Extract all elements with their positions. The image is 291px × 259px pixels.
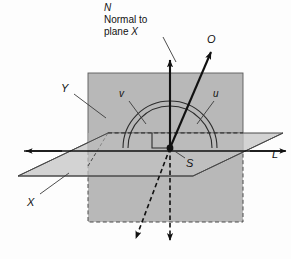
label-normal-line2-prefix: plane [104, 26, 131, 37]
label-normal-plane-X: X [131, 26, 138, 37]
leader-normal-label [163, 37, 176, 62]
label-plane-X: X [27, 196, 34, 209]
label-angle-u: u [213, 88, 219, 100]
geometry-diagram: N Normal to plane X O Y v u S L X [0, 0, 291, 259]
station-point-S [167, 145, 174, 152]
normal-annotation: N Normal to plane X [104, 2, 147, 37]
label-point-S: S [186, 157, 193, 170]
diagram-canvas [0, 0, 291, 259]
label-vector-O: O [207, 33, 216, 46]
label-line-L: L [272, 148, 278, 161]
label-normal-line1: Normal to [104, 14, 147, 25]
label-N: N [104, 2, 147, 14]
label-angle-v: v [119, 88, 124, 100]
label-plane-Y: Y [61, 82, 68, 95]
